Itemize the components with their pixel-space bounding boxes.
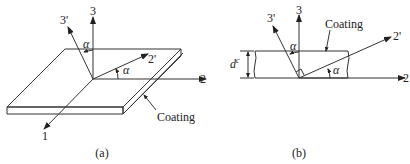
coating-left-break (254, 51, 256, 78)
coating-pointer (326, 30, 330, 51)
angle-arc-2-to-2prime (116, 69, 118, 79)
axis-2-prime-label: 2' (393, 29, 401, 43)
axis-2-prime-arrow (93, 54, 148, 79)
panel-b: dc 3 3' 2' 2 α α Coating (b) (230, 3, 409, 160)
angle-alpha-label-top: α (290, 39, 297, 53)
axis-3-prime-arrow (68, 27, 93, 79)
axis-2-prime-arrow (299, 37, 391, 78)
axis-1-label: 1 (42, 129, 48, 143)
angle-alpha-label-bottom: α (333, 63, 340, 77)
axis-3-prime-label: 3' (60, 13, 68, 27)
thickness-label: dc (230, 56, 240, 71)
axis-3-prime-label: 3' (267, 11, 275, 25)
axis-2-prime-label: 2' (148, 52, 156, 66)
coating-orientation-diagram: 3 3' 2' 2 1 α α Coating (a) dc 3 (0, 0, 410, 164)
coating-label: Coating (325, 17, 363, 31)
coated-plate (7, 49, 183, 114)
coating-right-break (347, 51, 349, 78)
panel-a: 3 3' 2' 2 1 α α Coating (a) (7, 4, 206, 160)
angle-alpha-label-top: α (83, 37, 90, 51)
axis-3-label: 3 (90, 4, 96, 18)
axis-2-label: 2 (403, 71, 409, 85)
axis-3-label: 3 (296, 3, 302, 17)
panel-a-caption: (a) (95, 146, 108, 160)
panel-b-caption: (b) (292, 146, 306, 160)
axis-2-label: 2 (200, 72, 206, 86)
axis-1-arrow (44, 79, 93, 129)
angle-alpha-label-bottom: α (123, 63, 130, 77)
angle-arc-2-to-2prime (328, 69, 330, 78)
coating-pointer (144, 95, 156, 110)
coating-label: Coating (157, 110, 195, 124)
